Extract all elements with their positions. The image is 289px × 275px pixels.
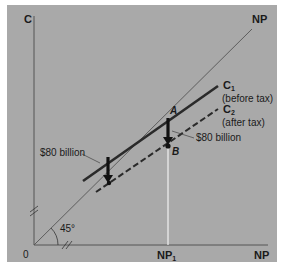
shift-amount-left: $80 billion: [40, 148, 85, 158]
origin-label: 0: [23, 250, 29, 260]
consumption-function-diagram: [0, 0, 289, 275]
c2-note: (after tax): [222, 118, 265, 128]
np1-label: NP1: [157, 250, 176, 262]
angle-label: 45°: [60, 224, 75, 234]
shift-amount-right: $80 billion: [196, 133, 241, 143]
c2-line: [96, 109, 218, 192]
c1-label: C1: [223, 80, 235, 92]
angle-arc-icon: [51, 228, 58, 245]
y-axis-label: C: [24, 14, 32, 25]
forty-five-line-label: NP: [252, 14, 267, 25]
x-axis-label: NP: [254, 250, 269, 261]
leader-line-right: [172, 131, 194, 138]
point-b-label: B: [172, 147, 179, 157]
c2-label: C2: [223, 104, 235, 116]
point-a-label: A: [170, 106, 177, 116]
